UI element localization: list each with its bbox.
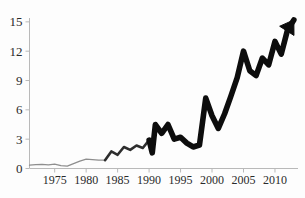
chart-container: 03691215 1975198019851990199520002005201… (0, 0, 305, 198)
series-segment-late (149, 20, 294, 153)
x-tick-label: 1985 (106, 173, 130, 187)
data-series-group (30, 20, 294, 166)
x-tick-label: 2005 (232, 173, 256, 187)
y-tick-group: 03691215 (10, 14, 30, 176)
y-tick-label: 6 (16, 102, 23, 117)
x-tick-label: 1980 (74, 173, 98, 187)
x-tick-label: 1990 (137, 173, 161, 187)
y-tick-label: 3 (16, 132, 23, 147)
x-tick-group: 19751980198519901995200020052010 (43, 169, 287, 187)
series-segment-mid (105, 140, 149, 160)
y-tick-label: 12 (10, 44, 23, 59)
y-tick-label: 9 (16, 73, 23, 88)
growth-line-chart: 03691215 1975198019851990199520002005201… (0, 0, 305, 198)
x-tick-label: 2010 (263, 173, 287, 187)
series-segment-early (30, 159, 106, 166)
y-tick-label: 0 (16, 161, 23, 176)
x-tick-label: 2000 (200, 173, 224, 187)
x-tick-label: 1975 (43, 173, 67, 187)
x-tick-label: 1995 (169, 173, 193, 187)
y-tick-label: 15 (10, 14, 23, 29)
